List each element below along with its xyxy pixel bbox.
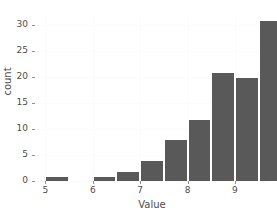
y-tick-mark xyxy=(32,129,35,130)
y-tick-label: 30 xyxy=(2,20,28,29)
histogram-bar xyxy=(188,119,212,181)
bar-series xyxy=(35,12,269,181)
histogram-bar xyxy=(116,171,140,181)
x-tick-label: 9 xyxy=(225,185,245,196)
y-tick-label: 10 xyxy=(2,124,28,133)
y-tick-mark xyxy=(32,103,35,104)
histogram-bar xyxy=(235,77,259,181)
x-tick-mark xyxy=(188,181,189,184)
x-tick-mark xyxy=(45,181,46,184)
y-tick-label: 25 xyxy=(2,46,28,55)
y-tick-mark xyxy=(32,51,35,52)
histogram-bar xyxy=(93,176,117,181)
x-tick-label: 5 xyxy=(35,185,55,196)
histogram-bar xyxy=(140,160,164,181)
histogram-bar xyxy=(45,176,69,181)
histogram-figure: 56789 051015202530 Value count xyxy=(0,0,277,223)
y-tick-mark xyxy=(32,77,35,78)
y-tick-label: 0 xyxy=(2,176,28,185)
x-tick-label: 7 xyxy=(130,185,150,196)
gridline-horizontal xyxy=(35,181,269,182)
x-axis-label: Value xyxy=(35,199,269,210)
histogram-bar xyxy=(164,139,188,181)
x-tick-mark xyxy=(93,181,94,184)
plot-area xyxy=(35,12,269,181)
y-axis-label: count xyxy=(2,59,13,105)
x-tick-mark xyxy=(140,181,141,184)
y-tick-label: 5 xyxy=(2,150,28,159)
x-tick-label: 6 xyxy=(83,185,103,196)
y-tick-mark xyxy=(32,25,35,26)
histogram-bar xyxy=(259,20,277,181)
histogram-bar xyxy=(211,72,235,181)
y-tick-mark xyxy=(32,181,35,182)
y-tick-mark xyxy=(32,155,35,156)
x-tick-label: 8 xyxy=(178,185,198,196)
x-tick-mark xyxy=(235,181,236,184)
